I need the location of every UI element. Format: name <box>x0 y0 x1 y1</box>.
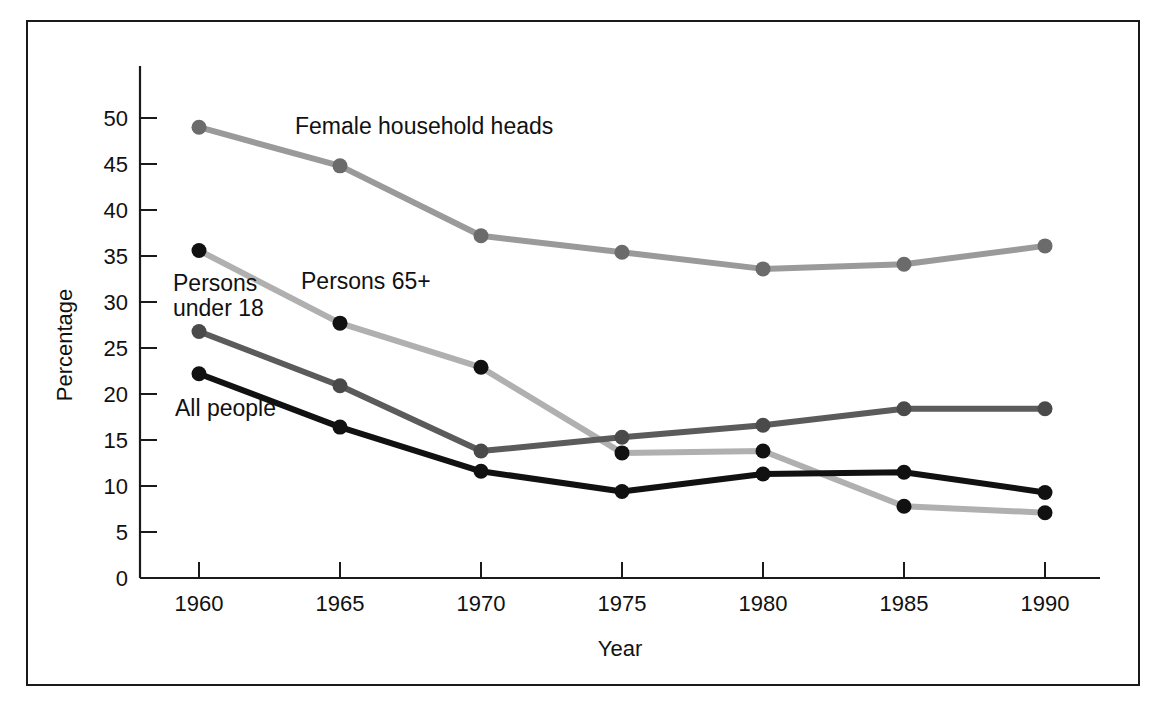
x-axis-tick-label: 1980 <box>739 591 788 616</box>
data-point-marker <box>333 420 348 435</box>
series-female-household-heads <box>192 120 1053 277</box>
data-point-marker <box>1038 485 1053 500</box>
series-layer <box>192 120 1053 520</box>
data-point-marker <box>897 465 912 480</box>
data-point-marker <box>615 430 630 445</box>
y-axis: 05101520253035404550 <box>104 66 157 591</box>
y-axis-tick-label: 45 <box>104 152 128 177</box>
x-axis-tick-label: 1960 <box>175 591 224 616</box>
y-axis-title: Percentage <box>52 289 77 402</box>
y-axis-tick-label: 40 <box>104 198 128 223</box>
y-axis-tick-label: 20 <box>104 382 128 407</box>
data-point-marker <box>897 257 912 272</box>
figure-container: 05101520253035404550 1960196519701975198… <box>0 0 1162 705</box>
data-point-marker <box>615 245 630 260</box>
y-axis-tick-label: 30 <box>104 290 128 315</box>
x-axis-title: Year <box>598 636 642 661</box>
data-point-marker <box>615 484 630 499</box>
data-point-marker <box>474 464 489 479</box>
data-point-marker <box>192 366 207 381</box>
data-point-marker <box>756 467 771 482</box>
x-axis-tick-label: 1970 <box>457 591 506 616</box>
data-point-marker <box>474 360 489 375</box>
data-point-marker <box>897 499 912 514</box>
series-label: Female household heads <box>295 113 553 139</box>
series-label: Persons <box>173 270 257 296</box>
data-point-marker <box>756 418 771 433</box>
data-point-marker <box>333 158 348 173</box>
x-axis-tick-label: 1985 <box>880 591 929 616</box>
x-axis-tick-label: 1990 <box>1021 591 1070 616</box>
series-label: All people <box>175 395 276 421</box>
y-axis-tick-label: 50 <box>104 106 128 131</box>
y-axis-tick-label: 5 <box>116 520 128 545</box>
data-point-marker <box>192 324 207 339</box>
y-axis-tick-label: 0 <box>116 566 128 591</box>
y-axis-tick-label: 35 <box>104 244 128 269</box>
x-axis: 1960196519701975198019851990 <box>140 562 1100 616</box>
data-point-marker <box>192 120 207 135</box>
data-point-marker <box>474 444 489 459</box>
data-point-marker <box>192 243 207 258</box>
data-point-marker <box>756 261 771 276</box>
x-axis-tick-label: 1965 <box>316 591 365 616</box>
data-point-marker <box>897 401 912 416</box>
data-point-marker <box>756 444 771 459</box>
data-point-marker <box>333 378 348 393</box>
line-chart: 05101520253035404550 1960196519701975198… <box>0 0 1162 705</box>
data-point-marker <box>333 316 348 331</box>
x-axis-tick-label: 1975 <box>598 591 647 616</box>
data-point-marker <box>474 228 489 243</box>
series-label: Persons 65+ <box>301 268 431 294</box>
data-point-marker <box>1038 401 1053 416</box>
y-axis-tick-label: 10 <box>104 474 128 499</box>
series-label: under 18 <box>173 295 264 321</box>
series-persons-under-18 <box>192 324 1053 459</box>
data-point-marker <box>1038 238 1053 253</box>
y-axis-tick-label: 15 <box>104 428 128 453</box>
y-axis-tick-label: 25 <box>104 336 128 361</box>
data-point-marker <box>615 445 630 460</box>
data-point-marker <box>1038 505 1053 520</box>
